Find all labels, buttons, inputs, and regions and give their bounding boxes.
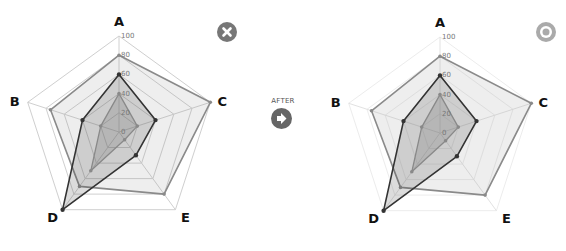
tick-label: 100 <box>442 33 455 41</box>
axis-label-B: B <box>10 94 20 109</box>
series-dark-point-C <box>153 118 157 122</box>
tick-label: 80 <box>121 51 130 59</box>
axis-label-C: C <box>218 94 228 109</box>
series-medium-point-E <box>483 193 487 197</box>
tick-label: 0 <box>121 128 125 136</box>
tick-label: 40 <box>121 90 130 98</box>
series-dark-point-D <box>381 209 385 213</box>
tick-label: 20 <box>121 109 130 117</box>
series-medium-point-C <box>209 101 213 105</box>
target-icon[interactable] <box>536 22 556 42</box>
close-glyph <box>217 22 237 42</box>
radar-chart-before: 020406080100ACEDB <box>0 0 250 251</box>
series-dark-point-B <box>401 119 405 123</box>
axis-label-D: D <box>47 210 58 225</box>
target-glyph <box>536 22 556 42</box>
axis-label-E: E <box>502 211 511 226</box>
tick-label: 100 <box>121 32 134 40</box>
close-icon[interactable] <box>217 22 237 42</box>
series-medium-point-E <box>162 192 166 196</box>
series-medium-point-B <box>49 108 53 112</box>
series-dark-point-D <box>60 208 64 212</box>
axis-label-C: C <box>539 95 549 110</box>
series-medium-point-B <box>370 109 374 113</box>
series-dark-point-B <box>80 118 84 122</box>
series-medium-point-C <box>530 102 534 106</box>
series-dark-point-C <box>474 119 478 123</box>
series-dark-point-E <box>455 154 459 158</box>
series-dark-point-E <box>134 153 138 157</box>
axis-label-B: B <box>331 95 341 110</box>
tick-label: 60 <box>442 71 451 79</box>
tick-label: 0 <box>442 129 446 137</box>
tick-label: 80 <box>442 52 451 60</box>
tick-label: 60 <box>121 70 130 78</box>
axis-label-D: D <box>368 211 379 226</box>
axis-label-E: E <box>181 210 190 225</box>
after-label: AFTER <box>268 97 298 105</box>
tick-label: 40 <box>442 91 451 99</box>
tick-label: 20 <box>442 110 451 118</box>
axis-label-A: A <box>114 14 124 29</box>
arrow-right-icon <box>271 108 292 129</box>
radar-chart-after: 020406080100ACEDB <box>320 0 566 251</box>
axis-label-A: A <box>435 15 445 30</box>
after-arrow-button[interactable] <box>271 108 292 129</box>
